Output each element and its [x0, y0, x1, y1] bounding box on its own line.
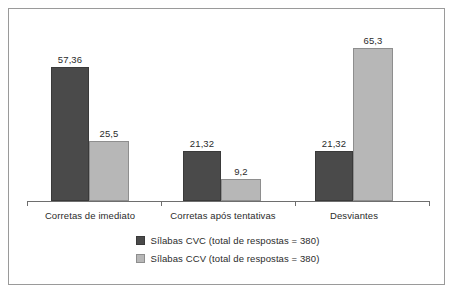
- x-axis-tick: [429, 201, 430, 206]
- bar-ccv-corretas-de-imediato[interactable]: [89, 141, 129, 201]
- bar-ccv-corretas-apos-tentativas[interactable]: [221, 179, 261, 201]
- category-label-corretas-de-imediato: Corretas de imediato: [30, 210, 150, 221]
- bar-ccv-desviantes[interactable]: [353, 48, 393, 201]
- x-axis-tick: [161, 201, 162, 206]
- legend-label-ccv: Sílabas CCV (total de respostas = 380): [151, 253, 320, 264]
- x-axis-line: [27, 201, 429, 202]
- legend-swatch-icon-cvc: [136, 236, 145, 245]
- chart-legend: Sílabas CVC (total de respostas = 380) S…: [9, 235, 446, 264]
- plot-area: 57,36 25,5 Corretas de imediato 21,32 9,…: [9, 9, 446, 286]
- x-axis-tick: [27, 201, 28, 206]
- legend-item-ccv[interactable]: Sílabas CCV (total de respostas = 380): [136, 253, 320, 264]
- bar-value-label: 57,36: [40, 54, 100, 65]
- bar-value-label: 9,2: [211, 166, 271, 177]
- bar-value-label: 21,32: [172, 138, 232, 149]
- legend-item-cvc[interactable]: Sílabas CVC (total de respostas = 380): [136, 235, 320, 246]
- category-label-corretas-apos-tentativas: Corretas após tentativas: [158, 210, 288, 221]
- bar-value-label: 25,5: [79, 128, 139, 139]
- legend-label-cvc: Sílabas CVC (total de respostas = 380): [151, 235, 320, 246]
- chart-frame: 57,36 25,5 Corretas de imediato 21,32 9,…: [8, 8, 445, 285]
- legend-swatch-icon-ccv: [136, 254, 145, 263]
- bar-cvc-desviantes[interactable]: [315, 151, 353, 201]
- category-label-desviantes: Desviantes: [299, 210, 409, 221]
- bar-value-label: 65,3: [343, 35, 403, 46]
- x-axis-tick: [295, 201, 296, 206]
